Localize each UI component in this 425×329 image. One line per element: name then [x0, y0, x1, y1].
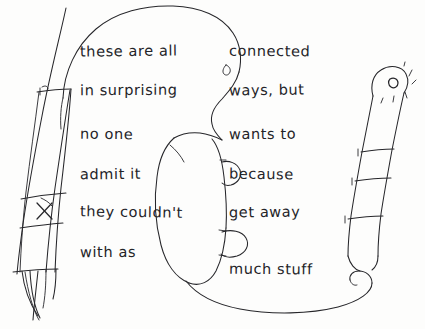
- handwritten-line-much-stuff: much stuff: [229, 262, 313, 277]
- bottom-sweep-curve: [186, 271, 372, 313]
- left-finger-form: [13, 8, 71, 320]
- handwritten-line-wants-to: wants to: [229, 127, 296, 142]
- handwritten-line-these-are-all: these are all: [80, 43, 178, 59]
- handwritten-line-they-couldnt: they couldn't: [80, 204, 183, 220]
- handwritten-line-because: because: [229, 167, 294, 182]
- sketch-canvas: these are all in surprising no one admit…: [0, 0, 425, 329]
- handwritten-line-with-as: with as: [80, 245, 136, 260]
- handwritten-line-admit-it: admit it: [80, 167, 141, 182]
- handwritten-line-connected: connected: [229, 44, 310, 59]
- pen-sketch-drawing: [0, 0, 425, 329]
- handwritten-line-no-one: no one: [80, 127, 133, 142]
- handwritten-line-get-away: get away: [229, 205, 301, 220]
- large-top-outline: [61, 6, 241, 140]
- handwritten-line-in-surprising: in surprising: [80, 83, 178, 98]
- right-finger-form: [345, 62, 416, 271]
- handwritten-line-ways-but: ways, but: [229, 83, 305, 98]
